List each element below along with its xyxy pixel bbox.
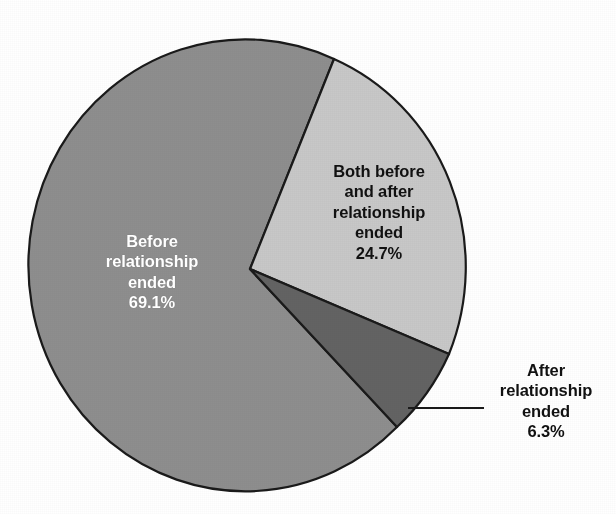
pie-label-before-line-3: ended xyxy=(72,272,232,292)
pie-label-after-relationship-ended: After relationship ended 6.3% xyxy=(480,360,612,442)
pie-label-after-line-1: After xyxy=(480,360,612,380)
pie-label-before-percent: 69.1% xyxy=(72,292,232,312)
pie-label-both-before-and-after-relationship-ended: Both before and after relationship ended… xyxy=(305,161,453,263)
pie-label-both-line-3: relationship xyxy=(305,202,453,222)
pie-label-both-line-4: ended xyxy=(305,222,453,242)
pie-label-before-relationship-ended: Before relationship ended 69.1% xyxy=(72,231,232,313)
pie-label-after-percent: 6.3% xyxy=(480,421,612,441)
pie-label-after-line-2: relationship xyxy=(480,380,612,400)
pie-label-after-line-3: ended xyxy=(480,401,612,421)
pie-chart: Before relationship ended 69.1% Both bef… xyxy=(0,0,616,514)
pie-label-before-line-2: relationship xyxy=(72,251,232,271)
pie-label-both-line-1: Both before xyxy=(305,161,453,181)
pie-label-before-line-1: Before xyxy=(72,231,232,251)
pie-label-both-line-2: and after xyxy=(305,181,453,201)
pie-label-both-percent: 24.7% xyxy=(305,243,453,263)
